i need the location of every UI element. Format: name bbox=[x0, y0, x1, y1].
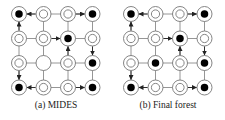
node-filled-icon bbox=[85, 7, 100, 22]
node-double-icon bbox=[61, 80, 76, 95]
node-filled-icon bbox=[148, 56, 163, 71]
panel-final-forest: (b) Final forest bbox=[112, 0, 224, 120]
node-filled-icon bbox=[173, 31, 188, 46]
node-filled-icon bbox=[85, 80, 100, 95]
node-filled-icon bbox=[197, 7, 212, 22]
caption-final-forest: (b) Final forest bbox=[112, 100, 224, 110]
node-filled-icon bbox=[12, 80, 27, 95]
node-double-icon bbox=[36, 80, 51, 95]
panel-mides: (a) MIDES bbox=[0, 0, 112, 120]
node-filled-icon bbox=[12, 7, 27, 22]
node-filled-icon bbox=[61, 31, 76, 46]
node-double-icon bbox=[12, 56, 27, 71]
node-filled-icon bbox=[85, 56, 100, 71]
grid-graph-final-forest bbox=[112, 0, 224, 100]
node-filled-icon bbox=[197, 80, 212, 95]
node-double-icon bbox=[61, 7, 76, 22]
node-double-icon bbox=[173, 56, 188, 71]
node-double-icon bbox=[148, 80, 163, 95]
node-double-icon bbox=[36, 7, 51, 22]
node-double-icon bbox=[36, 31, 51, 46]
node-double-icon bbox=[197, 31, 212, 46]
node-double-icon bbox=[173, 80, 188, 95]
node-filled-icon bbox=[197, 56, 212, 71]
node-double-icon bbox=[124, 56, 139, 71]
node-filled-icon bbox=[124, 7, 139, 22]
node-filled-icon bbox=[124, 80, 139, 95]
node-double-icon bbox=[148, 7, 163, 22]
node-empty-icon bbox=[36, 56, 51, 71]
caption-mides: (a) MIDES bbox=[0, 100, 112, 110]
node-double-icon bbox=[124, 31, 139, 46]
grid-graph-mides bbox=[0, 0, 112, 100]
node-double-icon bbox=[12, 31, 27, 46]
node-double-icon bbox=[173, 7, 188, 22]
node-double-icon bbox=[148, 31, 163, 46]
node-double-icon bbox=[61, 56, 76, 71]
node-double-icon bbox=[85, 31, 100, 46]
